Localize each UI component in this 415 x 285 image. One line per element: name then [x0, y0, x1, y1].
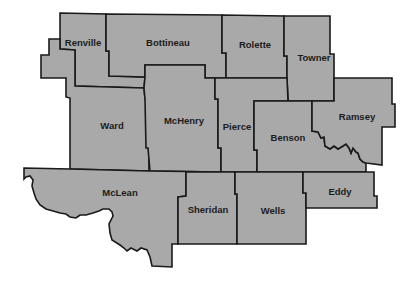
label-sheridan: Sheridan: [188, 204, 229, 215]
county-map: Renville Bottineau Rolette Towner Ward M…: [0, 0, 415, 285]
label-ward: Ward: [100, 120, 124, 131]
label-benson: Benson: [271, 132, 306, 143]
label-towner: Towner: [297, 52, 330, 63]
label-eddy: Eddy: [328, 186, 352, 197]
label-renville: Renville: [65, 37, 101, 48]
label-rolette: Rolette: [239, 39, 271, 50]
label-pierce: Pierce: [223, 121, 252, 132]
label-mchenry: McHenry: [164, 115, 205, 126]
label-wells: Wells: [261, 205, 286, 216]
label-ramsey: Ramsey: [339, 111, 376, 122]
label-mclean: McLean: [102, 187, 138, 198]
label-bottineau: Bottineau: [146, 37, 190, 48]
